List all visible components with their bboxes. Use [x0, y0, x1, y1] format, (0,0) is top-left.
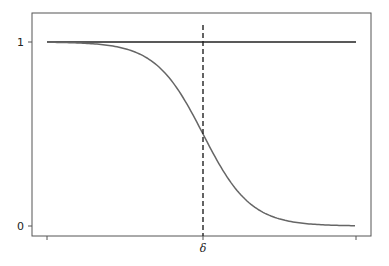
chart: 1 0 δ: [0, 0, 389, 266]
y-tick-label-1: 1: [17, 36, 24, 49]
x-tick-label-delta: δ: [200, 242, 207, 255]
sigmoid-curve: [47, 42, 355, 225]
y-tick-label-0: 0: [17, 220, 24, 233]
plot-frame: [32, 13, 371, 236]
